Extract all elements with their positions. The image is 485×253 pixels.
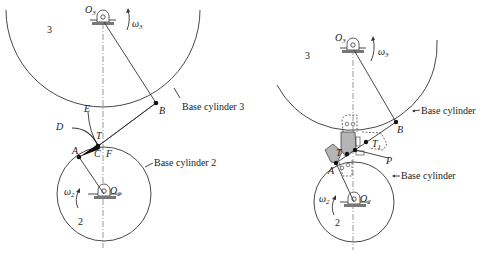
point-t1-label-right: T1 — [372, 138, 381, 151]
o3-label: O3 — [85, 4, 96, 17]
left-figure: 3 2 O3 O2 ω3 ω2 B E D T A C F Base cylin… — [6, 4, 244, 248]
point-c-label: C — [94, 148, 101, 159]
omega3-arrow-icon-right — [371, 38, 374, 61]
omega2-label: ω2 — [64, 186, 75, 199]
point-b-label: B — [159, 105, 165, 116]
point-t-label: T — [96, 130, 103, 141]
omega3-label: ω3 — [132, 18, 143, 31]
radius-o2-a-right — [336, 163, 354, 202]
base-cylinder-2-label: Base cylinder 2 — [154, 157, 216, 168]
tangent-line — [97, 103, 156, 147]
base-cylinder-upper-label: Base cylinder — [421, 105, 476, 116]
involute-gear-diagram: 3 2 O3 O2 ω3 ω2 B E D T A C F Base cylin… — [0, 0, 485, 253]
right-figure: 3 2 O3 O2 ω3 ω2 B A T T1 P Base cylinder… — [277, 32, 476, 250]
involute-d — [72, 128, 98, 146]
omega2-arrow-icon-right — [332, 197, 335, 215]
gear-2-label-right: 2 — [335, 217, 340, 228]
point-p-label-right: P — [385, 155, 392, 166]
base-cylinder-3-label: Base cylinder 3 — [182, 101, 244, 112]
point-b — [154, 101, 159, 106]
tooth-tip-rect — [356, 137, 360, 146]
callout-leader-2 — [145, 163, 153, 167]
point-t1-right — [364, 140, 368, 144]
point-a-label-right: A — [327, 165, 335, 176]
point-e-label: E — [83, 103, 90, 114]
omega2-arrow-icon — [76, 190, 79, 208]
base-cylinder-3-arc-right — [277, 40, 437, 130]
point-b-label-right: B — [397, 124, 403, 135]
omega3-label-right: ω3 — [378, 46, 389, 59]
point-pitch-right — [353, 148, 357, 152]
gear-3-label: 3 — [47, 24, 52, 35]
point-d-label: D — [55, 121, 64, 132]
radius-o2-a — [79, 157, 104, 194]
point-t-right — [345, 152, 349, 156]
point-f-label: F — [105, 148, 113, 159]
omega2-label-right: ω2 — [319, 193, 330, 206]
radius-o3-b-right — [354, 50, 396, 122]
omega3-arrow-icon — [127, 10, 129, 30]
gear-2-label: 2 — [78, 216, 83, 227]
callout-leader-3 — [174, 88, 180, 98]
point-a-label: A — [71, 145, 79, 156]
gear-3-label-right: 3 — [305, 50, 310, 61]
o3-label-right: O3 — [335, 32, 346, 45]
point-a-right — [334, 161, 338, 165]
radius-o3-b — [104, 22, 156, 103]
base-cylinder-lower-label: Base cylinder — [401, 170, 456, 181]
